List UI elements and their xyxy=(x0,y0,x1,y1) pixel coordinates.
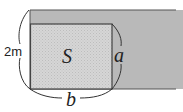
label-area-s: S xyxy=(62,45,72,67)
label-2m: 2m xyxy=(4,44,22,59)
strip-diagram: 2m a b S xyxy=(0,0,183,112)
label-a: a xyxy=(114,44,124,66)
label-b: b xyxy=(66,88,76,110)
